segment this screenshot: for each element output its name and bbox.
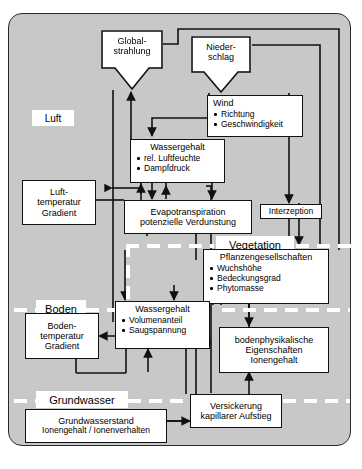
node-wind-bullets: Richtung Geschwindigkeit [208,109,302,129]
vegetation-separator-right [296,244,351,248]
node-pflanzengesellschaften-bullet-2: Phytomasse [210,283,328,293]
node-pflanzengesellschaften-bullet-0: Wuchshöhe [210,263,328,273]
zone-label-luft: Luft [32,110,74,126]
node-bodenphysikalische-line0: bodenphysikalische [235,335,314,345]
node-wassergehalt-luft-bullets: rel. Luftfeuchte Dampfdruck [131,153,224,173]
node-bodentemperatur-line2: Gradient [45,341,80,351]
node-bodentemperatur-line0: Boden- [47,321,76,331]
node-interzeption: Interzeption [260,204,322,219]
node-evapotranspiration-line0: Evapotranspiration [150,207,225,217]
node-pflanzengesellschaften-title: Pflanzengesellschaften [204,250,328,262]
node-versickerung: Versickerung kapillarer Aufstieg [190,394,282,428]
node-wassergehalt-boden-bullet-1: Saugspannung [122,325,209,335]
node-wind-bullet-0: Richtung [214,109,302,119]
node-bodentemperatur-line1: temperatur [40,331,84,341]
node-versickerung-line1: kapillarer Aufstieg [200,411,271,421]
node-niederschlag-line1: Nieder- [191,42,251,52]
node-pflanzengesellschaften-bullets: Wuchshöhe Bedeckungsgrad Phytomasse [204,263,328,293]
node-wassergehalt-boden: Wassergehalt Volumenanteil Saugspannung [115,301,210,349]
node-wind-bullet-1: Geschwindigkeit [214,119,302,129]
node-bodentemperatur: Boden- temperatur Gradient [25,313,99,359]
node-evapotranspiration: Evapotranspiration potenzielle Verdunstu… [124,200,252,234]
node-globalstrahlung-line2: strahlung [101,46,163,56]
node-grundwasserstand-line1: Ionengehalt / Ionenverhalten [42,426,150,436]
node-lufttemperatur-line0: Luft- [50,187,68,197]
node-evapotranspiration-line1: potenzielle Verdunstung [140,217,236,227]
diagram-root: Global- strahlung Nieder- schlag Luft Ve… [0,0,362,469]
vegetation-separator-left [126,244,214,248]
boden-separator-right [222,308,350,312]
zone-label-luft-text: Luft [45,113,62,124]
node-bodenphysikalische-line1: Eigenschaften [245,345,302,355]
node-pflanzengesellschaften: Pflanzengesellschaften Wuchshöhe Bedecku… [203,249,329,304]
node-wassergehalt-boden-bullet-0: Volumenanteil [122,315,209,325]
node-niederschlag-line2: schlag [191,52,251,62]
node-wind-title: Wind [208,96,302,108]
node-wind: Wind Richtung Geschwindigkeit [207,95,303,137]
node-globalstrahlung-line1: Global- [101,36,163,46]
node-wassergehalt-luft-bullet-0: rel. Luftfeuchte [137,153,224,163]
vegetation-frame-left [126,244,130,306]
zone-label-grundwasser-text: Grundwasser [49,394,114,406]
grundwasser-separator-left [14,399,36,403]
node-wassergehalt-luft: Wassergehalt rel. Luftfeuchte Dampfdruck [130,139,225,183]
zone-label-grundwasser: Grundwasser [36,391,128,408]
node-grundwasserstand: Grundwasserstand Ionengehalt / Ionenverh… [25,409,167,443]
node-lufttemperatur-line2: Gradient [42,208,77,218]
node-wassergehalt-luft-title: Wassergehalt [131,140,224,152]
node-interzeption-line0: Interzeption [269,207,313,217]
node-lufttemperatur: Luft- temperatur Gradient [22,180,96,225]
node-wassergehalt-boden-bullets: Volumenanteil Saugspannung [116,315,209,335]
grundwasser-separator-mid [128,399,185,403]
node-versickerung-line0: Versickerung [210,401,262,411]
node-bodenphysikalische: bodenphysikalische Eigenschaften Ionenge… [219,327,329,373]
node-wassergehalt-boden-title: Wassergehalt [116,302,209,314]
node-pflanzengesellschaften-bullet-1: Bedeckungsgrad [210,273,328,283]
node-bodenphysikalische-line2: Ionengehalt [250,355,297,365]
node-wassergehalt-luft-bullet-1: Dampfdruck [137,163,224,173]
boden-separator-left [14,308,36,312]
node-lufttemperatur-line1: temperatur [37,197,81,207]
